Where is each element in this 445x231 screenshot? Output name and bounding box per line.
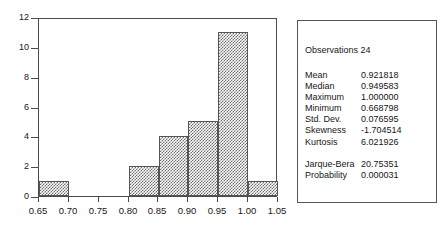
y-axis-label: 2 (3, 162, 29, 171)
x-axis-tick (187, 197, 188, 202)
statistic-label: Kurtosis (305, 137, 361, 148)
statistic-value: -1.704514 (361, 125, 431, 136)
y-axis-tick (31, 18, 38, 19)
x-axis-label: 1.05 (257, 205, 297, 216)
histogram-bar (129, 166, 159, 196)
statistic-row: Jarque-Bera20.75351 (305, 159, 431, 170)
statistic-value: 0.076595 (361, 114, 431, 125)
statistic-value: 20.75351 (361, 159, 431, 170)
histogram-bar (248, 181, 278, 196)
statistic-label: Jarque-Bera (305, 159, 361, 170)
y-axis-tick (31, 78, 38, 79)
histogram-bar (39, 181, 69, 196)
histogram-bars (39, 19, 276, 196)
y-axis-tick (31, 137, 38, 138)
statistic-row: Minimum0.668798 (305, 103, 431, 114)
y-axis-label: 12 (3, 13, 29, 22)
y-axis-label: 6 (3, 103, 29, 112)
statistic-value: 0.949583 (361, 81, 431, 92)
statistic-row: Mean0.921818 (305, 70, 431, 81)
y-axis-tick (31, 108, 38, 109)
histogram-bar (188, 121, 218, 196)
statistic-value: 1.000000 (361, 92, 431, 103)
statistic-label: Mean (305, 70, 361, 81)
statistics-panel: Observations 24 Mean0.921818Median0.9495… (297, 20, 437, 203)
y-axis-label: 10 (3, 43, 29, 52)
y-axis-tick (31, 197, 38, 198)
statistics-content: Observations 24 Mean0.921818Median0.9495… (305, 45, 431, 181)
statistic-row: Std. Dev.0.076595 (305, 114, 431, 125)
x-axis-tick (217, 197, 218, 202)
x-axis-tick (98, 197, 99, 202)
histogram-bar (159, 136, 189, 196)
statistic-value: 6.021926 (361, 137, 431, 148)
y-axis-label: 8 (3, 73, 29, 82)
x-axis-tick (128, 197, 129, 202)
statistic-row: Skewness-1.704514 (305, 125, 431, 136)
statistic-row: Maximum1.000000 (305, 92, 431, 103)
statistic-label: Std. Dev. (305, 114, 361, 125)
x-axis-tick (157, 197, 158, 202)
statistic-row: Kurtosis6.021926 (305, 137, 431, 148)
y-axis-tick (31, 48, 38, 49)
statistics-rows: Mean0.921818Median0.949583Maximum1.00000… (305, 70, 431, 181)
statistic-row: Median0.949583 (305, 81, 431, 92)
statistics-divider (305, 148, 431, 159)
y-axis-label: 0 (3, 192, 29, 201)
statistic-label: Probability (305, 170, 361, 181)
statistic-label: Maximum (305, 92, 361, 103)
statistic-value: 0.921818 (361, 70, 431, 81)
statistic-label: Skewness (305, 125, 361, 136)
statistic-label: Minimum (305, 103, 361, 114)
y-axis-label: 4 (3, 132, 29, 141)
observations-line: Observations 24 (305, 45, 431, 56)
plot-area (38, 18, 277, 197)
statistic-value: 0.000031 (361, 170, 431, 181)
x-axis-tick (247, 197, 248, 202)
statistic-value: 0.668798 (361, 103, 431, 114)
x-axis-tick (68, 197, 69, 202)
histogram-bar (218, 32, 248, 196)
y-axis-tick (31, 167, 38, 168)
statistic-label: Median (305, 81, 361, 92)
x-axis-tick (38, 197, 39, 202)
statistic-row: Probability0.000031 (305, 170, 431, 181)
histogram-figure: 024681012 0.650.700.750.800.850.900.951.… (0, 0, 292, 231)
x-axis-tick (277, 197, 278, 202)
